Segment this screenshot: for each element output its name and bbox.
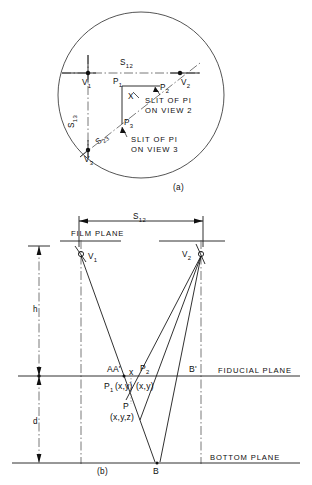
dim-h-arrow-top [37, 246, 42, 255]
label-b-prime: B' [189, 364, 197, 374]
label-x-a: X [128, 92, 134, 101]
label-fiducial-plane: FIDUCIAL PLANE [218, 366, 292, 375]
label-v1-b: V1 [88, 252, 97, 263]
ray-v1-to-b [81, 256, 155, 462]
annotation-view3-line2: ON VIEW 3 [131, 145, 178, 154]
label-bottom-plane: BOTTOM PLANE [210, 453, 280, 462]
label-x-b: x [129, 367, 134, 377]
figure-root: S12 V1 V2 V3 S13 S23 P1 P2 P3 X SLIT OF … [0, 0, 312, 485]
label-s13-group: S13 [67, 115, 78, 128]
label-h: h [33, 305, 38, 314]
technical-figure: S12 V1 V2 V3 S13 S23 P1 P2 P3 X SLIT OF … [0, 0, 312, 485]
caption-a: (a) [173, 183, 184, 192]
label-p1-b: P1(x,y) [104, 381, 133, 393]
ray-v2-to-a [126, 256, 201, 400]
label-p3-a: P3 [124, 118, 134, 129]
label-film-plane: FILM PLANE [71, 229, 124, 238]
vertex-v1-marker [86, 71, 90, 75]
annotation-view3-line1: SLIT OF PI [131, 135, 178, 144]
label-p-coords: (x,y,z) [110, 412, 134, 422]
ray-v2-to-p [140, 256, 201, 420]
label-s23-group: S23 [94, 131, 111, 148]
label-p-b: P [123, 401, 129, 411]
vertex-v1-b-tilt [75, 246, 86, 262]
dim-s12-arrow-left [79, 218, 88, 223]
leader-view2-arrowhead [153, 87, 159, 92]
label-d: d [33, 417, 38, 426]
label-v1-a: V1 [82, 78, 91, 89]
bottom-point-b [156, 462, 159, 465]
dim-s12-arrow-right [194, 218, 203, 223]
label-p1-a: P1 [113, 77, 122, 88]
fiducial-point-a [123, 375, 126, 378]
label-v3-a: V3 [84, 155, 94, 166]
label-s13-a: S13 [67, 115, 78, 128]
caption-b: (b) [97, 467, 108, 476]
leader-view3-arrowhead [120, 127, 126, 133]
label-s12-a: S12 [120, 58, 133, 69]
label-s23-a: S23 [94, 131, 111, 148]
label-p2-a: P2 [160, 83, 169, 94]
panel-a: S12 V1 V2 V3 S13 S23 P1 P2 P3 X SLIT OF … [58, 12, 224, 192]
label-v2-b: V2 [182, 250, 191, 261]
panel-b: S12 FILM PLANE FIDUCIAL PLANE BOTTOM PLA… [12, 212, 300, 476]
x-intersection-tick [133, 92, 139, 98]
label-v2-a: V2 [181, 78, 190, 89]
label-b-bottom: B [153, 466, 159, 476]
label-p2-b: P2 [140, 363, 149, 375]
fiducial-left-tick [37, 374, 40, 377]
ray-v2-to-b [160, 256, 201, 462]
label-s12-b: S12 [133, 212, 146, 223]
label-aa-prime: AA' [107, 364, 121, 374]
annotation-view2-line1: SLIT OF PI [145, 96, 192, 105]
vertex-v2-marker [178, 71, 182, 75]
label-p2-coords: (x,y) [136, 381, 154, 391]
dim-d-arrow-bottom [37, 454, 42, 463]
annotation-view2-line2: ON VIEW 2 [145, 106, 192, 115]
